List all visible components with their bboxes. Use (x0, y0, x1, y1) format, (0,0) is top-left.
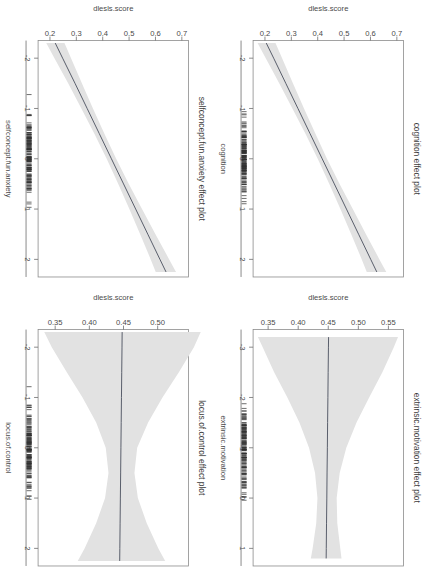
y-axis-label: dlesls.score (308, 292, 348, 301)
y-tick-label: 0.40 (82, 317, 97, 326)
y-axis-label: dlesls.score (308, 3, 348, 12)
fit-line (266, 43, 377, 272)
y-tick-label: 0.4 (97, 29, 108, 38)
y-tick-label: 0.3 (71, 29, 82, 38)
y-tick-label: 0.7 (391, 29, 402, 38)
y-tick-label: 0.4 (312, 29, 323, 38)
y-tick-label: 0.6 (150, 29, 161, 38)
y-tick-label: 0.50 (150, 317, 165, 326)
y-tick-label: 0.6 (365, 29, 376, 38)
panel-selfconcept-fun-anxiety-svg: -2-10120.20.30.40.50.60.7selfconcept.fun… (0, 0, 215, 289)
effects-figure: -2-10120.20.30.40.50.60.7cognitiondlesls… (0, 0, 429, 577)
panel-locus-of-control-svg: -2-10120.350.400.450.50locus.of.controld… (0, 289, 215, 577)
x-tick-label: 1 (238, 545, 247, 549)
panel-title: locus.of.control effect plot (197, 399, 207, 495)
fit-line (55, 43, 166, 272)
x-tick-label: -2 (238, 393, 247, 400)
x-tick-label: 1 (238, 206, 247, 210)
x-tick-label: 2 (23, 257, 32, 261)
y-axis-label: dlesls.score (93, 3, 133, 12)
y-tick-label: 0.35 (48, 317, 63, 326)
panel-locus-of-control: -2-10120.350.400.450.50locus.of.controld… (0, 289, 215, 577)
y-tick-label: 0.2 (45, 29, 56, 38)
x-tick-label: -1 (238, 105, 247, 112)
panel-cognition-svg: -2-10120.20.30.40.50.60.7cognitiondlesls… (215, 0, 429, 289)
x-axis-label: selfconcept.fun.anxiety (4, 120, 13, 198)
y-tick-label: 0.35 (260, 317, 275, 326)
panel-title: cognition effect plot (412, 122, 422, 195)
x-axis-label: cognition (219, 143, 228, 173)
y-tick-label: 0.50 (350, 317, 365, 326)
panel-cognition: -2-10120.20.30.40.50.60.7cognitiondlesls… (215, 0, 429, 289)
panel-extrinsic-motivation: -3-2-1010.350.400.450.500.55extrinsic.mo… (215, 289, 429, 577)
y-tick-label: 0.45 (320, 317, 335, 326)
y-tick-label: 0.40 (290, 317, 305, 326)
y-tick-label: 0.45 (116, 317, 131, 326)
x-tick-label: -2 (23, 343, 32, 350)
y-tick-label: 0.5 (338, 29, 349, 38)
x-tick-label: -3 (238, 343, 247, 350)
x-tick-label: -1 (23, 105, 32, 112)
x-axis-label: extrinsic.motivation (219, 414, 228, 479)
panel-extrinsic-motivation-svg: -3-2-1010.350.400.450.500.55extrinsic.mo… (215, 289, 429, 577)
panel-selfconcept-fun-anxiety: -2-10120.20.30.40.50.60.7selfconcept.fun… (0, 0, 215, 289)
x-tick-label: -2 (23, 54, 32, 61)
x-tick-label: -2 (238, 54, 247, 61)
y-tick-label: 0.3 (286, 29, 297, 38)
y-tick-label: 0.2 (259, 29, 270, 38)
figure-frame: -2-10120.20.30.40.50.60.7cognitiondlesls… (0, 0, 429, 577)
y-axis-label: dlesls.score (93, 292, 133, 301)
panel-title: selfconcept.fun.anxiety effect plot (197, 96, 207, 221)
y-tick-label: 0.7 (177, 29, 188, 38)
x-tick-label: 2 (238, 257, 247, 261)
x-tick-label: -1 (23, 393, 32, 400)
y-tick-label: 0.55 (380, 317, 395, 326)
y-tick-label: 0.5 (124, 29, 135, 38)
panel-title: extrinsic.motivation effect plot (412, 392, 422, 503)
x-tick-label: 2 (23, 545, 32, 549)
x-axis-label: locus.of.control (4, 421, 13, 472)
